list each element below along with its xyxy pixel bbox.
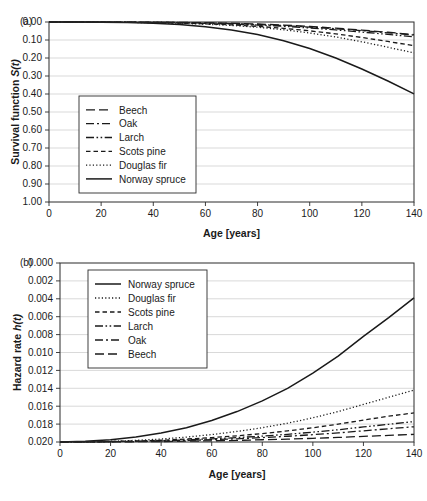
legend-label-larch: Larch xyxy=(119,132,144,143)
y-tick-label: 0.40 xyxy=(23,88,43,99)
y-axis-title: Survival function S(t) xyxy=(9,59,21,165)
panel-tag: (a) xyxy=(20,16,32,27)
y-tick-label: 0.80 xyxy=(23,160,43,171)
x-tick-label: 20 xyxy=(105,448,117,459)
legend-label-scots-pine: Scots pine xyxy=(119,146,166,157)
y-tick-label: 0.002 xyxy=(28,275,53,286)
legend-label-oak: Oak xyxy=(128,335,147,346)
y-tick-label: 0.10 xyxy=(23,34,43,45)
svg-text:Hazard rate h(t): Hazard rate h(t) xyxy=(11,313,23,391)
x-tick-label: 120 xyxy=(354,208,371,219)
y-tick-label: 0.004 xyxy=(28,293,53,304)
y-tick-label: 0.012 xyxy=(28,365,53,376)
y-tick-label: 0.016 xyxy=(28,401,53,412)
legend-label-beech: Beech xyxy=(119,105,147,116)
legend-label-beech: Beech xyxy=(128,349,156,360)
x-tick-label: 80 xyxy=(252,208,264,219)
y-axis-title: Hazard rate h(t) xyxy=(11,313,23,391)
y-tick-label: 0.008 xyxy=(28,329,53,340)
y-tick-label: 0.90 xyxy=(23,178,43,189)
legend-label-norway-spruce: Norway spruce xyxy=(128,279,195,290)
x-tick-label: 0 xyxy=(57,448,63,459)
y-tick-label: 0.018 xyxy=(28,419,53,430)
y-tick-label: 0.010 xyxy=(28,347,53,358)
y-tick-label: 1.00 xyxy=(23,196,43,207)
y-tick-label: 0.006 xyxy=(28,311,53,322)
x-tick-label: 40 xyxy=(156,448,168,459)
x-tick-label: 20 xyxy=(96,208,108,219)
y-tick-label: 0.70 xyxy=(23,142,43,153)
y-tick-label: 0.014 xyxy=(28,383,53,394)
legend-label-douglas-fir: Douglas fir xyxy=(128,293,176,304)
survival-hazard-figure: 1.000.900.800.700.600.500.400.300.200.10… xyxy=(0,0,427,501)
x-axis-title: Age [years] xyxy=(208,468,265,480)
x-tick-label: 140 xyxy=(406,448,423,459)
curve-douglas-fir xyxy=(60,390,414,442)
x-tick-label: 140 xyxy=(406,208,423,219)
legend-label-oak: Oak xyxy=(119,118,138,129)
x-tick-label: 120 xyxy=(355,448,372,459)
y-tick-label: 0.020 xyxy=(28,436,53,447)
panel-a-chart: 1.000.900.800.700.600.500.400.300.200.10… xyxy=(0,0,427,250)
curve-oak xyxy=(49,22,414,35)
x-axis-title: Age [years] xyxy=(203,227,260,239)
panel-tag: (b) xyxy=(20,257,32,268)
legend-label-douglas-fir: Douglas fir xyxy=(119,160,167,171)
x-tick-label: 60 xyxy=(200,208,212,219)
svg-text:Survival function S(t): Survival function S(t) xyxy=(9,59,21,165)
x-tick-label: 80 xyxy=(257,448,269,459)
legend-label-scots-pine: Scots pine xyxy=(128,307,175,318)
x-tick-label: 100 xyxy=(301,208,318,219)
x-tick-label: 100 xyxy=(305,448,322,459)
y-tick-label: 0.30 xyxy=(23,70,43,81)
x-tick-label: 0 xyxy=(46,208,52,219)
y-tick-label: 0.50 xyxy=(23,106,43,117)
panel-a-survival-function: 1.000.900.800.700.600.500.400.300.200.10… xyxy=(0,0,427,250)
legend-label-larch: Larch xyxy=(128,321,153,332)
panel-b-hazard-rate: 0.0200.0180.0160.0140.0120.0100.0080.006… xyxy=(0,250,427,501)
legend-label-norway-spruce: Norway spruce xyxy=(119,174,186,185)
x-tick-label: 60 xyxy=(206,448,218,459)
y-tick-label: 0.20 xyxy=(23,52,43,63)
curve-scots-pine xyxy=(49,22,414,46)
y-tick-label: 0.60 xyxy=(23,124,43,135)
panel-b-chart: 0.0200.0180.0160.0140.0120.0100.0080.006… xyxy=(0,250,427,501)
x-tick-label: 40 xyxy=(148,208,160,219)
